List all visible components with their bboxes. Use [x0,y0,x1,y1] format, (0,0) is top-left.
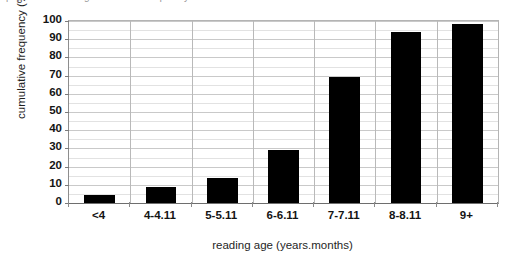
x-tick-mark [252,202,253,207]
bar [146,187,177,203]
x-tick-mark [313,202,314,207]
x-tick-label: 8-8.11 [389,209,421,221]
x-tick-mark [374,202,375,207]
bar [207,178,238,203]
bar [268,150,299,203]
y-tick-label: 0 [56,196,62,208]
y-tick-label: 10 [49,178,62,190]
bar [452,24,483,203]
bar [391,32,422,203]
x-tick-label: 4-4.11 [144,209,176,221]
y-tick-label: 40 [49,123,62,135]
x-tick-label: 6-6.11 [267,209,299,221]
y-tick-mark [65,130,69,131]
y-tick-mark [65,57,69,58]
cumulative-frequency-bar-chart: cumulative frequency (%) 010203040506070… [0,0,513,266]
y-tick-label: 20 [49,160,62,172]
y-tick-mark [65,21,69,22]
x-tick-mark [497,202,498,207]
y-axis-title: cumulative frequency (%) [15,0,27,147]
x-tick-label: 9+ [460,209,473,221]
y-tick-mark [65,112,69,113]
y-tick-mark [65,185,69,186]
x-tick-mark [191,202,192,207]
bar [329,77,360,203]
y-tick-label: 80 [49,51,62,63]
y-tick-label: 60 [49,87,62,99]
x-axis-title: reading age (years.months) [68,239,497,251]
plot-area [68,20,499,204]
y-tick-label: 50 [49,105,62,117]
x-tick-label: 5-5.11 [205,209,237,221]
x-tick-mark [436,202,437,207]
y-tick-mark [65,39,69,40]
y-tick-label: 70 [49,69,62,81]
x-tick-label: 7-7.11 [328,209,360,221]
x-tick-label: <4 [92,209,105,221]
y-tick-mark [65,148,69,149]
y-axis-tick-labels: 0102030405060708090100 [30,20,62,202]
y-tick-mark [65,94,69,95]
y-tick-label: 90 [49,32,62,44]
y-tick-mark [65,167,69,168]
x-tick-mark [129,202,130,207]
y-tick-label: 100 [43,14,62,26]
x-axis-tick-labels: <44-4.115-5.116-6.117-7.118-8.119+ [68,209,497,229]
bar-series [69,21,498,203]
y-tick-label: 30 [49,142,62,154]
x-tick-mark [68,202,69,207]
y-tick-mark [65,76,69,77]
x-axis-tick-marks [68,202,497,207]
